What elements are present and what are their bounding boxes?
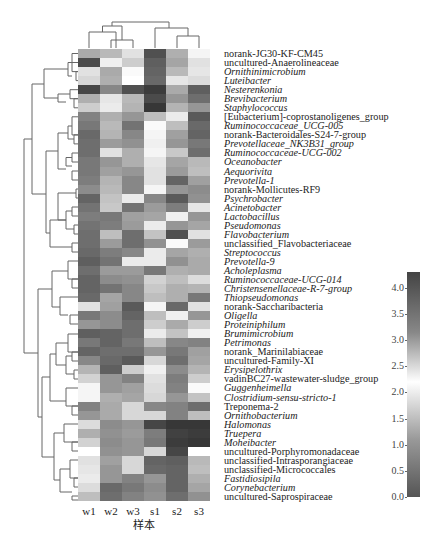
- heatmap-cell: [188, 411, 210, 420]
- heatmap-cell: [122, 293, 144, 302]
- colorbar-tick-mark: [405, 497, 407, 498]
- heatmap-cell: [166, 257, 188, 266]
- heatmap-cell: [100, 230, 122, 239]
- heatmap-cell: [166, 248, 188, 257]
- heatmap-cell: [122, 275, 144, 284]
- heatmap-cell: [122, 67, 144, 76]
- heatmap-cell: [122, 393, 144, 402]
- heatmap-cell: [144, 266, 166, 275]
- heatmap-cell: [188, 130, 210, 139]
- heatmap-cell: [166, 302, 188, 311]
- row-dendrogram: [10, 49, 78, 501]
- heatmap-cell: [78, 420, 100, 429]
- heatmap-cell: [78, 194, 100, 203]
- heatmap-cell: [78, 293, 100, 302]
- heatmap-cell: [78, 121, 100, 130]
- heatmap-cell: [78, 483, 100, 492]
- heatmap-cell: [166, 76, 188, 85]
- heatmap-cell: [78, 329, 100, 338]
- heatmap-cell: [166, 157, 188, 166]
- heatmap-cell: [144, 112, 166, 121]
- heatmap-cell: [166, 203, 188, 212]
- heatmap-cell: [166, 139, 188, 148]
- heatmap-cell: [144, 365, 166, 374]
- heatmap-cell: [100, 176, 122, 185]
- heatmap-cell: [188, 420, 210, 429]
- heatmap-cell: [122, 465, 144, 474]
- heatmap-cell: [122, 483, 144, 492]
- heatmap-cell: [100, 447, 122, 456]
- heatmap-cell: [78, 185, 100, 194]
- heatmap-cell: [100, 420, 122, 429]
- heatmap-cell: [144, 76, 166, 85]
- heatmap-cell: [122, 438, 144, 447]
- heatmap-cell: [78, 203, 100, 212]
- heatmap-cell: [166, 239, 188, 248]
- heatmap-cell: [166, 194, 188, 203]
- heatmap-cell: [166, 420, 188, 429]
- heatmap-cell: [78, 474, 100, 483]
- heatmap-cell: [166, 411, 188, 420]
- heatmap-cell: [100, 266, 122, 275]
- heatmap-cell: [100, 221, 122, 230]
- heatmap-cell: [188, 239, 210, 248]
- heatmap-cell: [188, 148, 210, 157]
- heatmap-cell: [100, 157, 122, 166]
- heatmap-cell: [78, 148, 100, 157]
- colorbar-tick-label: 1.0: [382, 440, 404, 450]
- heatmap-cell: [166, 347, 188, 356]
- heatmap-cell: [78, 257, 100, 266]
- heatmap-cell: [78, 320, 100, 329]
- heatmap-cell: [100, 203, 122, 212]
- heatmap-cell: [122, 311, 144, 320]
- heatmap-cell: [188, 338, 210, 347]
- heatmap-cell: [188, 320, 210, 329]
- heatmap-cell: [78, 338, 100, 347]
- heatmap-grid: [78, 49, 210, 501]
- heatmap-cell: [144, 121, 166, 130]
- heatmap-cell: [188, 374, 210, 383]
- heatmap-cell: [100, 429, 122, 438]
- heatmap-cell: [188, 383, 210, 392]
- heatmap-cell: [144, 311, 166, 320]
- heatmap-cell: [122, 194, 144, 203]
- heatmap-cell: [100, 67, 122, 76]
- colorbar-tick-mark: [405, 366, 407, 367]
- heatmap-cell: [144, 139, 166, 148]
- heatmap-cell: [188, 284, 210, 293]
- heatmap-cell: [122, 257, 144, 266]
- heatmap-cell: [78, 67, 100, 76]
- heatmap-cell: [144, 393, 166, 402]
- heatmap-cell: [166, 383, 188, 392]
- heatmap-cell: [166, 212, 188, 221]
- heatmap-cell: [78, 176, 100, 185]
- heatmap-cell: [122, 365, 144, 374]
- heatmap-cell: [188, 456, 210, 465]
- heatmap-cell: [78, 456, 100, 465]
- heatmap-cell: [188, 248, 210, 257]
- heatmap-cell: [78, 49, 100, 58]
- heatmap-cell: [78, 302, 100, 311]
- heatmap-cell: [166, 465, 188, 474]
- heatmap-cell: [122, 338, 144, 347]
- heatmap-cell: [78, 76, 100, 85]
- colorbar-tick-label: 0.5: [382, 466, 404, 476]
- heatmap-cell: [100, 257, 122, 266]
- heatmap-cell: [100, 103, 122, 112]
- heatmap-cell: [122, 383, 144, 392]
- heatmap-cell: [166, 293, 188, 302]
- heatmap-cell: [78, 393, 100, 402]
- heatmap-cell: [144, 356, 166, 365]
- heatmap-cell: [144, 103, 166, 112]
- heatmap-cell: [188, 393, 210, 402]
- heatmap-cell: [78, 429, 100, 438]
- heatmap-cell: [144, 302, 166, 311]
- heatmap-cell: [144, 85, 166, 94]
- heatmap-cell: [166, 49, 188, 58]
- heatmap-cell: [78, 58, 100, 67]
- heatmap-cell: [78, 365, 100, 374]
- heatmap-cell: [166, 130, 188, 139]
- heatmap-cell: [144, 212, 166, 221]
- heatmap-cell: [100, 492, 122, 501]
- heatmap-cell: [144, 275, 166, 284]
